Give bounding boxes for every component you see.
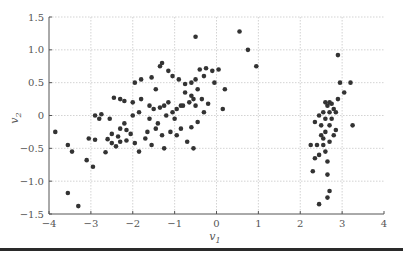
data-point [342,90,347,95]
data-point [327,189,332,194]
data-point [193,34,198,39]
data-point [200,97,205,102]
data-point [170,74,175,79]
data-point [334,110,339,115]
x-tick-labels: −4−3−2−101234 [42,218,388,229]
data-point [133,141,138,146]
x-tick-label: −3 [84,218,99,229]
page-divider [0,248,403,251]
data-point [145,130,150,135]
x-tick-label: −2 [125,218,140,229]
y-tick-label: −1.0 [20,176,44,187]
data-point [147,103,152,108]
data-point [334,128,339,133]
data-point [143,136,148,141]
data-point [107,116,112,121]
x-tick-label: −4 [42,218,57,229]
data-point [99,112,104,117]
y-tick-labels: −1.5−1.0−0.500.51.01.5 [20,12,44,220]
data-point [348,80,353,85]
data-point [97,116,102,121]
data-point [166,69,171,74]
data-point [118,139,123,144]
data-point [187,100,192,105]
data-point [315,143,320,148]
data-point [128,132,133,137]
data-point [130,113,135,118]
data-point [223,87,228,92]
y-tick-label: 0 [38,110,44,121]
data-point [86,136,91,141]
data-point [254,64,259,69]
data-point [164,113,169,118]
data-point [151,107,156,112]
data-point [350,123,355,128]
data-point [191,146,196,151]
data-point [133,80,138,85]
data-point [118,126,123,131]
data-point [112,95,117,100]
data-point [325,195,330,200]
x-axis-label: v1 [209,230,220,245]
data-point [327,139,332,144]
data-point [76,204,81,209]
data-point [91,164,96,169]
data-point [160,133,165,138]
data-point [183,90,188,95]
data-point [321,110,326,115]
data-point [311,169,316,174]
data-point [66,143,71,148]
data-point [70,149,75,154]
data-point [327,123,332,128]
y-tick-label: −1.5 [20,209,44,220]
data-point [66,191,71,196]
data-point [202,74,207,79]
data-point [189,80,194,85]
data-point [118,97,123,102]
data-point [139,97,144,102]
data-point [174,107,179,112]
data-point [336,97,341,102]
data-point [172,116,177,121]
data-point [216,67,221,72]
data-point [321,143,326,148]
data-point [191,97,196,102]
data-point [212,80,217,85]
data-point [110,132,115,137]
data-point [329,101,334,106]
data-point [325,159,330,164]
x-tick-label: 1 [255,218,261,229]
data-point [329,116,334,121]
data-point [331,133,336,138]
data-point [147,116,152,121]
data-point [189,125,194,130]
data-point [149,143,154,148]
data-point [323,149,328,154]
data-point [160,61,165,66]
data-point [193,103,198,108]
data-point [110,141,115,146]
data-point [149,75,154,80]
data-point [313,156,318,161]
data-point [116,134,121,139]
axes [49,17,384,214]
data-point [114,144,119,149]
data-point [137,149,142,154]
data-point [319,123,324,128]
x-tick-label: 0 [213,218,219,229]
y-tick-label: −0.5 [20,143,44,154]
data-point [153,126,158,131]
data-point [220,107,225,112]
scatter-chart: −4−3−2−101234 −1.5−1.0−0.500.51.01.5 v1 … [0,0,403,259]
data-point [237,29,242,34]
data-point [124,128,129,133]
x-tick-label: 3 [339,218,345,229]
data-point [317,113,322,118]
data-point [170,110,175,115]
data-point [174,133,179,138]
data-point [156,121,161,126]
data-point [338,80,343,85]
data-point [323,130,328,135]
data-point [162,103,167,108]
data-point [323,100,328,105]
